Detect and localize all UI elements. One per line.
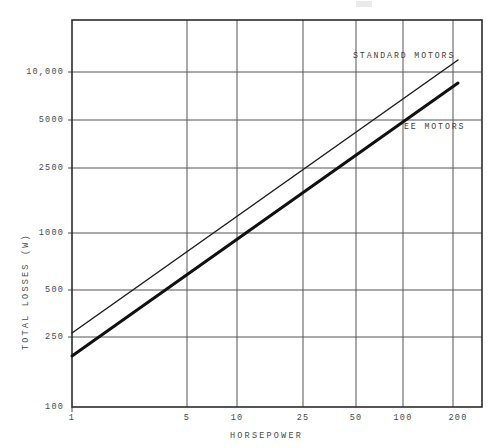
ytick-label-250: 250 bbox=[6, 333, 64, 342]
ytick-label-5000: 5000 bbox=[6, 116, 64, 125]
series-line-ee-motors bbox=[72, 83, 458, 356]
xtick-label-100: 100 bbox=[387, 414, 419, 423]
series-label-standard-motors: STANDARD MOTORS bbox=[353, 52, 455, 60]
ytick-label-2500: 2500 bbox=[6, 164, 64, 173]
ytick-label-10000: 10,000 bbox=[6, 68, 64, 77]
series-line-standard-motors bbox=[72, 60, 458, 333]
gridlines-horizontal bbox=[72, 72, 482, 337]
ytick-label-100: 100 bbox=[6, 403, 64, 412]
chart-figure: 10,000 5000 2500 1000 500 250 100 1 5 10… bbox=[0, 0, 496, 448]
plot-frame bbox=[72, 20, 482, 407]
x-axis-title: HORSEPOWER bbox=[230, 432, 303, 441]
xtick-label-10: 10 bbox=[223, 414, 251, 423]
y-axis-title: TOTAL LOSSES (W) bbox=[22, 233, 31, 350]
chart-plot-area bbox=[0, 0, 496, 448]
xtick-label-5: 5 bbox=[173, 414, 201, 423]
xtick-label-1: 1 bbox=[58, 414, 86, 423]
ytick-label-500: 500 bbox=[6, 286, 64, 295]
xtick-label-25: 25 bbox=[289, 414, 317, 423]
xtick-label-50: 50 bbox=[342, 414, 370, 423]
ytick-label-1000: 1000 bbox=[6, 229, 64, 238]
series-label-ee-motors: EE MOTORS bbox=[404, 123, 465, 131]
xtick-label-200: 200 bbox=[442, 414, 474, 423]
gridlines-vertical bbox=[187, 20, 453, 407]
